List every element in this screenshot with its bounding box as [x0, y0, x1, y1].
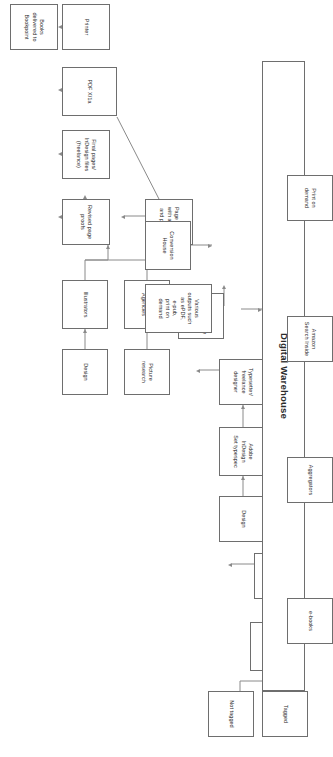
node-typesetter-freelance-designer[interactable]: Typesetter/ freelance designer — [219, 359, 267, 405]
node-adobe-indesign-set-typespec[interactable]: Adobe InDesign Set typespec — [219, 427, 267, 476]
node-final-pages-indesign-files[interactable]: Final pages/ InDesign files (freelance) — [62, 130, 110, 179]
node-aggregators[interactable]: Aggregators — [287, 457, 333, 503]
node-print-on-demand[interactable]: Print on demand — [287, 175, 333, 221]
node-tagged[interactable]: Tagged — [262, 691, 308, 737]
node-illustrators[interactable]: Illustrators — [62, 280, 108, 329]
node-pdf-x1a[interactable]: PDF X/1a — [62, 67, 117, 116]
arrowhead — [121, 215, 125, 219]
node-picture-research[interactable]: Picture research — [124, 349, 170, 395]
arrowhead — [228, 563, 232, 567]
arrowhead — [208, 244, 212, 248]
node-design-1[interactable]: Design — [219, 496, 267, 542]
node-amazon-search-inside[interactable]: Amazon Search Inside — [287, 316, 333, 362]
arrowhead — [241, 405, 245, 409]
node-printer[interactable]: Printer — [62, 4, 110, 50]
arrowhead — [196, 369, 200, 373]
node-books-delivered-to-bookpoint[interactable]: Books delivered to Bookpoint — [10, 4, 58, 50]
node-various-outputs[interactable]: Various outputs such as ePDF, e-pub, pri… — [145, 284, 212, 333]
arrowhead — [241, 476, 245, 480]
arrowhead — [222, 285, 226, 289]
node-digital-warehouse[interactable]: Digital Warehouse — [262, 61, 305, 691]
node-ebooks[interactable]: e-books — [287, 598, 333, 644]
arrowhead — [106, 245, 110, 249]
arrowhead — [83, 329, 87, 333]
node-revised-page-proofs[interactable]: Revised page proofs — [62, 199, 110, 245]
node-design-2[interactable]: Design — [62, 349, 108, 395]
node-conversion-house[interactable]: Conversion House — [145, 221, 191, 270]
node-not-tagged[interactable]: Not tagged — [208, 691, 254, 737]
